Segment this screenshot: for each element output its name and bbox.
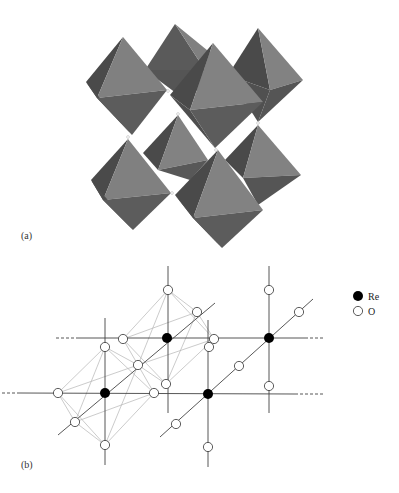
panel-label-b: (b) xyxy=(21,459,33,470)
legend-item-o: O xyxy=(353,306,375,317)
panel-a-octahedra xyxy=(86,24,303,248)
legend-item-re: Re xyxy=(353,291,380,302)
panel-b-lattice: Re O xyxy=(0,266,380,467)
octahedron-front-top-left xyxy=(86,37,167,135)
legend-label-re: Re xyxy=(368,291,380,302)
panel-label-a: (a) xyxy=(21,230,32,241)
figure: Re O (a) (b) xyxy=(0,0,399,493)
o-legend-icon xyxy=(353,306,362,315)
re-legend-icon xyxy=(353,291,363,301)
lattice-bonds xyxy=(20,266,313,467)
figure-svg: Re O xyxy=(0,0,399,493)
legend: Re O xyxy=(353,291,380,317)
legend-label-o: O xyxy=(368,306,375,317)
oxygen-atoms xyxy=(53,285,303,451)
